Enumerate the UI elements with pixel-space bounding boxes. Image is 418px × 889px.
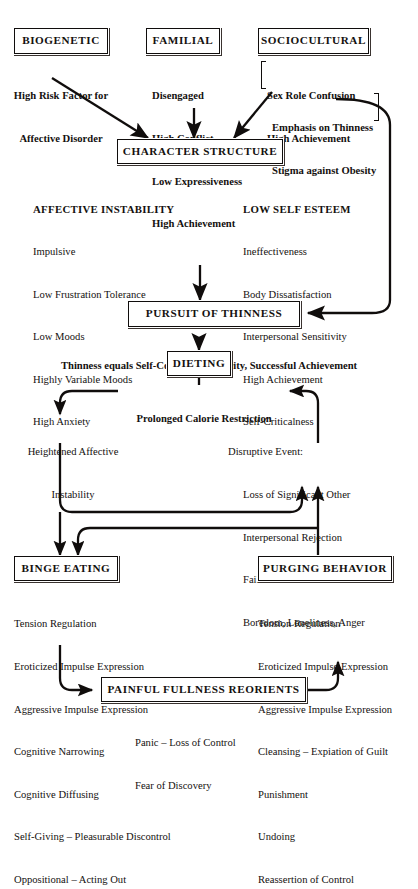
painful-fullness-items: Panic – Loss of Control Fear of Discover… [135, 708, 236, 822]
node-painful-fullness-label: PAINFUL FULLNESS REORIENTS [108, 684, 300, 695]
node-pursuit-of-thinness-label: PURSUIT OF THINNESS [146, 308, 282, 319]
node-sociocultural-label: SOCIOCULTURAL [261, 35, 366, 46]
purging-behavior-items: Tension Regulation Eroticized Impulse Ex… [258, 589, 392, 889]
node-character-structure[interactable]: CHARACTER STRUCTURE [117, 139, 283, 164]
node-familial[interactable]: FAMILIAL [146, 28, 220, 54]
node-character-structure-label: CHARACTER STRUCTURE [123, 146, 277, 157]
sociocultural-bracket-a [261, 61, 266, 89]
node-binge-eating-label: BINGE EATING [22, 563, 111, 574]
node-biogenetic-label: BIOGENETIC [22, 35, 100, 46]
biogenetic-items: High Risk Factor for Affective Disorder [8, 61, 114, 175]
heightened-affective-instability: Heightened Affective Instability [8, 417, 138, 531]
node-biogenetic[interactable]: BIOGENETIC [14, 28, 108, 54]
node-sociocultural[interactable]: SOCIOCULTURAL [258, 28, 369, 54]
node-purging-behavior-label: PURGING BEHAVIOR [263, 563, 387, 574]
node-binge-eating[interactable]: BINGE EATING [14, 556, 118, 581]
low-self-esteem-heading: LOW SELF ESTEEM [243, 202, 351, 216]
disruptive-event-heading: Disruptive Event: [228, 445, 365, 459]
node-painful-fullness-reorients[interactable]: PAINFUL FULLNESS REORIENTS [101, 677, 306, 702]
node-dieting[interactable]: DIETING [167, 351, 231, 376]
node-dieting-label: DIETING [173, 358, 225, 369]
node-purging-behavior[interactable]: PURGING BEHAVIOR [258, 556, 392, 581]
sociocultural-bracket-b [374, 93, 379, 121]
node-familial-label: FAMILIAL [153, 35, 214, 46]
node-pursuit-of-thinness[interactable]: PURSUIT OF THINNESS [128, 301, 300, 327]
affective-instability-heading: AFFECTIVE INSTABILITY [33, 202, 174, 216]
